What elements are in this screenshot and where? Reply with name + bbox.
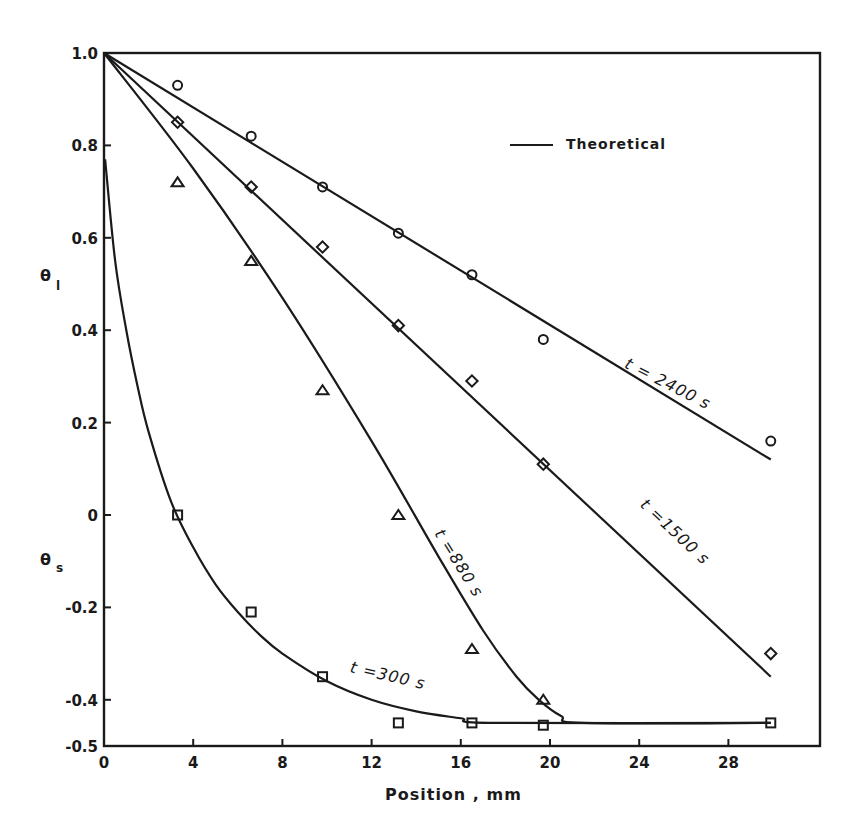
y-axis-label-theta-s: θ [40,550,52,569]
triangle-marker-icon [172,177,184,186]
y-axis-label-liquid: θ l [40,266,61,293]
curve-label: t =300 s [348,657,427,693]
y-tick-label: -0.5 [65,738,98,756]
triangle-marker-icon [317,385,329,394]
y-tick-label: 1.0 [71,45,98,63]
y-axis-label-sub-l: l [56,279,61,293]
triangle-marker-icon [392,510,404,519]
triangle-marker-icon [466,644,478,653]
square-marker-icon [247,608,256,617]
theory-line-circle [104,53,771,460]
x-tick-label: 8 [277,754,287,772]
x-tick-label: 28 [718,754,739,772]
y-axis-label-theta-l: θ [40,266,52,285]
circle-marker-icon [173,81,182,90]
square-marker-icon [394,718,403,727]
theory-line-diamond [104,53,771,677]
data-markers [172,81,777,730]
x-tick-label: 24 [629,754,650,772]
y-tick-label: 0.2 [71,415,98,433]
y-axis-label-solid: θ s [40,550,64,575]
y-axis-label-sub-s: s [56,561,64,575]
x-tick-label: 0 [99,754,109,772]
y-tick-label: 0 [88,507,98,525]
y-tick-label: 0.8 [71,137,98,155]
curve-label: t = 2400 s [622,354,714,414]
diamond-marker-icon [466,375,477,386]
y-tick-label: 0.4 [71,322,98,340]
y-tick-label: 0.6 [71,230,98,248]
circle-marker-icon [247,132,256,141]
legend: Theoretical [510,136,666,152]
diamond-marker-icon [765,648,776,659]
x-tick-label: 4 [188,754,198,772]
circle-marker-icon [539,335,548,344]
curve-labels: t = 2400 st =1500 st =880 st =300 s [348,354,714,693]
legend-label: Theoretical [566,136,666,152]
y-tick-label: -0.2 [65,599,98,617]
x-axis-label: Position , mm [385,785,522,804]
circle-marker-icon [766,437,775,446]
x-tick-label: 20 [540,754,561,772]
x-tick-label: 12 [361,754,382,772]
curve-label: t =1500 s [636,495,713,569]
x-tick-label: 16 [450,754,471,772]
chart: 04812162024281.00.80.60.40.20-0.2-0.4-0.… [0,0,859,836]
diamond-marker-icon [317,241,328,252]
y-tick-label: -0.4 [65,692,98,710]
axis-ticks: 04812162024281.00.80.60.40.20-0.2-0.4-0.… [65,45,739,772]
theory-line-square [105,159,771,723]
